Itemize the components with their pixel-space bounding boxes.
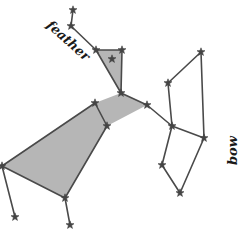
star-icon (200, 134, 208, 142)
constellation-line (180, 138, 204, 193)
star-icon (11, 213, 19, 221)
constellation-line (2, 166, 15, 217)
star-icon (158, 161, 166, 169)
constellation-line (201, 52, 204, 138)
bow-label: bow (224, 136, 239, 165)
constellation-line (65, 198, 70, 225)
constellation-lines (2, 10, 204, 225)
constellation-line (121, 50, 122, 93)
constellation-line (172, 126, 204, 138)
constellation-diagram (0, 0, 243, 234)
filled-shapes (2, 50, 147, 198)
constellation-line (168, 52, 201, 83)
constellation-line (147, 105, 172, 126)
constellation-line (168, 83, 172, 126)
star-icon (66, 221, 74, 229)
constellation-line (162, 126, 172, 165)
constellation-line (162, 165, 180, 193)
